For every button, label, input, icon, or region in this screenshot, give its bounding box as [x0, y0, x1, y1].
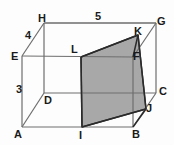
vertex-label-I: I	[79, 130, 82, 141]
vertex-label-J: J	[146, 103, 152, 114]
geometry-figure: A B C D E F G H I J K L 5 4 3	[0, 0, 174, 145]
vertex-label-G: G	[157, 16, 166, 27]
vertex-label-B: B	[132, 129, 140, 140]
vertex-label-C: C	[159, 86, 167, 97]
shaded-cross-section	[81, 35, 146, 127]
vertex-label-D: D	[44, 95, 52, 106]
dimension-label-slant: 4	[25, 30, 31, 41]
vertex-label-F: F	[133, 51, 140, 62]
vertex-label-E: E	[11, 51, 18, 62]
dimension-label-top: 5	[95, 11, 101, 22]
vertex-label-L: L	[71, 44, 78, 55]
vertex-label-K: K	[134, 26, 142, 37]
edge-IL	[81, 57, 82, 127]
prism-drawing	[0, 0, 174, 145]
vertex-label-H: H	[38, 13, 46, 24]
vertex-label-A: A	[14, 129, 22, 140]
dimension-label-left: 3	[16, 84, 22, 95]
edge-AD	[22, 93, 44, 127]
